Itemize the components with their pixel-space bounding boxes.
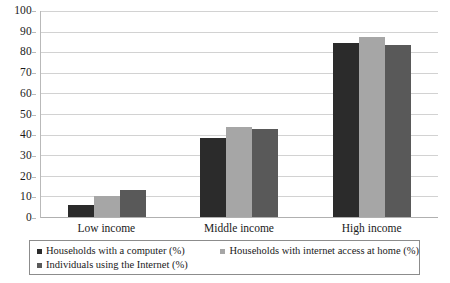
bar <box>94 196 120 217</box>
y-tick-label: 70 <box>20 67 32 79</box>
legend: Households with a computer (%) Household… <box>29 240 420 275</box>
y-tick-mark <box>32 218 36 219</box>
gridline <box>41 217 438 218</box>
bar-group <box>41 11 173 217</box>
x-tick-label: Low income <box>40 219 173 237</box>
y-tick-label: 60 <box>20 88 32 100</box>
legend-swatch-icon <box>37 249 42 254</box>
legend-row-2: Individuals using the Internet (%) <box>30 258 419 272</box>
y-tick-label: 80 <box>20 47 32 59</box>
y-tick-label: 20 <box>20 171 32 183</box>
bar <box>359 37 385 217</box>
y-tick-mark <box>32 115 36 116</box>
bar <box>333 43 359 217</box>
legend-item-individuals-internet: Individuals using the Internet (%) <box>37 260 253 271</box>
plot-area <box>40 11 438 218</box>
legend-swatch-icon <box>220 249 225 254</box>
x-tick-label: Middle income <box>173 219 306 237</box>
legend-row-1: Households with a computer (%) Household… <box>30 244 419 258</box>
y-tick-mark <box>32 11 36 12</box>
y-tick-label: 50 <box>20 109 32 121</box>
y-axis: 0102030405060708090100 <box>0 11 36 218</box>
y-tick-label: 10 <box>20 192 32 204</box>
y-tick-label: 100 <box>14 5 32 17</box>
x-axis: Low incomeMiddle incomeHigh income <box>40 219 438 237</box>
y-tick-mark <box>32 177 36 178</box>
y-tick-mark <box>32 197 36 198</box>
y-tick-mark <box>32 135 36 136</box>
y-tick-label: 90 <box>20 26 32 38</box>
legend-label: Households with internet access at home … <box>229 246 419 257</box>
legend-swatch-icon <box>37 263 42 268</box>
bar-chart: 0102030405060708090100 Low incomeMiddle … <box>0 0 450 283</box>
legend-label: Households with a computer (%) <box>46 246 185 257</box>
bar <box>385 45 411 217</box>
bar <box>252 129 278 217</box>
bar-groups <box>41 11 438 217</box>
y-tick-mark <box>32 52 36 53</box>
legend-item-households-computer: Households with a computer (%) <box>37 246 220 257</box>
legend-label: Individuals using the Internet (%) <box>46 260 188 271</box>
bar <box>68 205 94 217</box>
y-tick-mark <box>32 156 36 157</box>
legend-item-households-internet-access: Households with internet access at home … <box>220 246 419 257</box>
y-tick-mark <box>32 73 36 74</box>
x-tick-label: High income <box>305 219 438 237</box>
bar <box>120 190 146 217</box>
y-tick-label: 30 <box>20 150 32 162</box>
y-tick-mark <box>32 32 36 33</box>
bar <box>200 138 226 217</box>
bar-group <box>173 11 305 217</box>
y-tick-mark <box>32 94 36 95</box>
bar-group <box>306 11 438 217</box>
y-tick-label: 40 <box>20 129 32 141</box>
bar <box>226 127 252 217</box>
